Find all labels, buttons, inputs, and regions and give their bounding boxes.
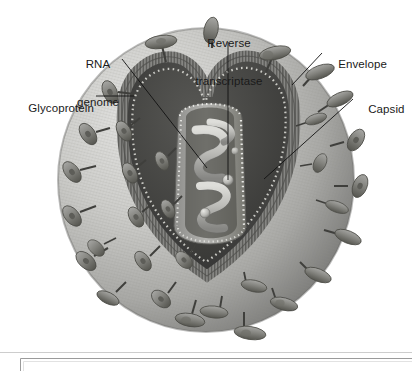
label-rna-genome: RNA genome [72, 33, 124, 133]
label-reverse-transcriptase: Reverse transcriptase [183, 12, 275, 112]
label-capsid-text: Capsid [368, 103, 404, 115]
label-envelope-text: Envelope [338, 58, 387, 70]
label-envelope: Envelope [325, 45, 395, 83]
label-rna-genome-line1: RNA [72, 58, 124, 71]
virus-diagram-figure: Glycoprotein RNA genome Reverse transcri… [0, 0, 412, 371]
caption-frame-box [21, 359, 412, 371]
label-reverse-transcriptase-line1: Reverse [183, 37, 275, 50]
footer-decor [0, 353, 412, 371]
label-rna-genome-line2: genome [72, 96, 124, 109]
caption-frame-inner [24, 362, 412, 371]
label-capsid: Capsid [355, 90, 411, 128]
label-reverse-transcriptase-line2: transcriptase [183, 75, 275, 88]
